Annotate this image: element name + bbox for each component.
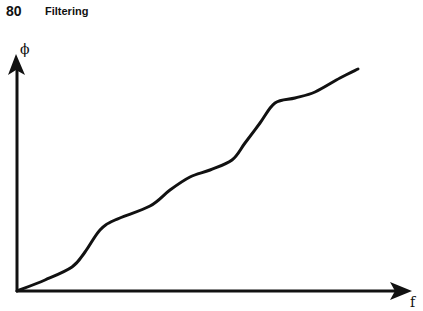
phase-frequency-diagram bbox=[0, 0, 423, 311]
phase-curve bbox=[17, 69, 358, 291]
x-axis bbox=[16, 282, 412, 300]
y-axis bbox=[8, 54, 25, 292]
y-axis-label: ϕ bbox=[20, 41, 30, 57]
x-axis-label: f bbox=[410, 294, 415, 310]
